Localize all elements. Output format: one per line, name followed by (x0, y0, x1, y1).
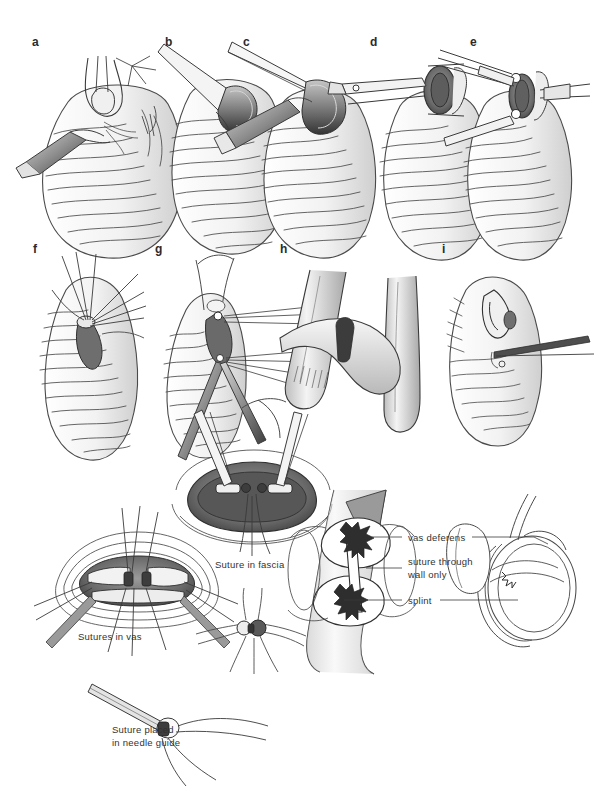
panel-letter-f: f (33, 243, 37, 255)
label-suture-through-wall-only: suture through wall only (408, 555, 473, 581)
panel-letter-c: c (243, 36, 250, 48)
panel-h-artwork (280, 270, 420, 432)
panel-letter-g: g (155, 243, 163, 255)
figure-canvas: a b c d e f g h i Sutures in vas Suture … (0, 0, 597, 800)
caption-suture-placed-in-needle-guide: Suture placed in needle guide (112, 723, 180, 749)
panel-f-artwork (40, 252, 146, 460)
panel-letter-d: d (370, 36, 378, 48)
panel-letter-e: e (470, 36, 477, 48)
panel-i-artwork (447, 277, 594, 446)
caption-suture-in-fascia: Suture in fascia (215, 558, 284, 571)
label-splint: splint (408, 594, 432, 607)
panel-letter-h: h (280, 243, 288, 255)
panel-letter-b: b (165, 36, 173, 48)
illustration-artwork (0, 0, 597, 800)
label-vas-deferens: vas deferens (408, 531, 465, 544)
panel-letter-a: a (32, 36, 39, 48)
caption-sutures-in-vas: Sutures in vas (78, 630, 142, 643)
panel-letter-i: i (442, 243, 446, 255)
panel-a-artwork (16, 56, 183, 258)
